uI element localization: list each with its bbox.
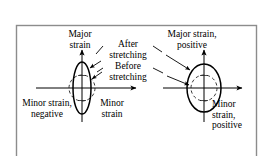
- label-after-stretching: After stretching: [104, 39, 152, 60]
- strain-diagram-figure: Major strain After stretching Before str…: [0, 0, 273, 156]
- label-major-strain-left: Major strain: [52, 29, 108, 50]
- label-minor-strain-middle: Minor strain: [92, 98, 132, 119]
- label-major-strain-right: Major strain, positive: [156, 29, 228, 50]
- label-minor-strain-positive: Minor strain, positive: [212, 99, 258, 131]
- label-before-stretching: Before stretching: [104, 61, 152, 82]
- label-minor-strain-negative: Minor strain, negative: [12, 98, 82, 119]
